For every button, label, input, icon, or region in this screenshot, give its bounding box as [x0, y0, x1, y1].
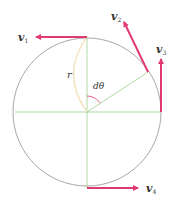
circular-motion-diagram: v1 v2 v3 v4 r dθ [0, 0, 170, 212]
label-v2: v2 [111, 10, 121, 23]
label-angle: dθ [93, 81, 105, 91]
radius-brace-arc [74, 37, 88, 112]
label-v3: v3 [156, 43, 166, 56]
vector-v2-arrow [124, 22, 148, 72]
label-radius: r [67, 69, 73, 80]
label-v4: v4 [146, 182, 156, 195]
angle-arc [87, 96, 100, 103]
label-v1: v1 [18, 31, 28, 44]
radius-to-v2 [87, 72, 148, 112]
